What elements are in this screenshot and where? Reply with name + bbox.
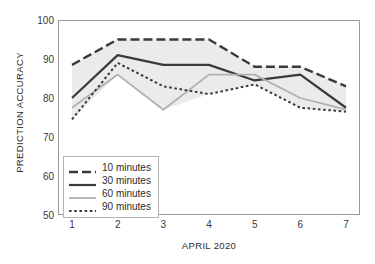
legend-item[interactable]: 30 minutes — [69, 174, 151, 187]
y-axis-tick: 70 — [28, 132, 54, 143]
legend-item-label: 90 minutes — [102, 201, 151, 212]
x-axis-tick: 1 — [60, 219, 84, 230]
x-axis-tick: 2 — [106, 219, 130, 230]
x-axis-tick-labels: 1234567 — [0, 219, 375, 235]
x-axis-tick: 3 — [151, 219, 175, 230]
legend-item[interactable]: 90 minutes — [69, 200, 151, 213]
prediction-accuracy-line-chart: PREDICTION ACCURACY 5060708090100 123456… — [0, 0, 375, 264]
legend-item[interactable]: 60 minutes — [69, 187, 151, 200]
x-axis-tick: 7 — [334, 219, 358, 230]
y-axis-tick: 80 — [28, 93, 54, 104]
x-axis-label: APRIL 2020 — [58, 240, 360, 251]
legend-item[interactable]: 10 minutes — [69, 161, 151, 174]
y-axis-label: PREDICTION ACCURACY — [14, 52, 25, 173]
legend-item-label: 10 minutes — [102, 162, 151, 173]
chart-legend: 10 minutes30 minutes60 minutes90 minutes — [63, 156, 159, 218]
legend-line-swatch-icon — [69, 189, 96, 199]
legend-item-label: 60 minutes — [102, 188, 151, 199]
legend-line-swatch-icon — [69, 202, 96, 212]
x-axis-tick: 4 — [197, 219, 221, 230]
legend-line-swatch-icon — [69, 163, 96, 173]
y-axis-tick: 90 — [28, 54, 54, 65]
legend-line-swatch-icon — [69, 176, 96, 186]
y-axis-tick: 100 — [28, 15, 54, 26]
y-axis-tick: 60 — [28, 171, 54, 182]
x-axis-tick: 5 — [243, 219, 267, 230]
x-axis-tick: 6 — [288, 219, 312, 230]
legend-item-label: 30 minutes — [102, 175, 151, 186]
